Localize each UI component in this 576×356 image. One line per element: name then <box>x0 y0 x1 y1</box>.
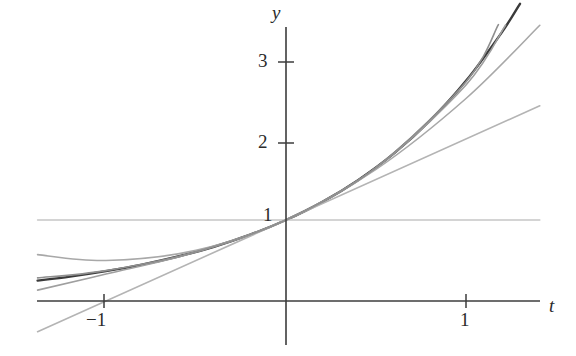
y-tick-label-3: 3 <box>258 50 268 72</box>
curve-t4 <box>38 25 499 278</box>
y-axis-label: y <box>272 2 280 24</box>
plot-canvas <box>0 0 576 356</box>
y-tick-label-1: 1 <box>263 204 273 226</box>
x-axis-label: t <box>549 295 554 317</box>
curve-t3 <box>38 25 506 290</box>
x-tick-label-1: 1 <box>460 309 470 331</box>
taylor-polynomial-figure: y t 3 2 1 −1 1 <box>0 0 576 356</box>
y-tick-label-2: 2 <box>258 131 268 153</box>
x-tick-label-minus-1: −1 <box>86 309 106 331</box>
curve-group <box>38 4 540 332</box>
curve-e-t <box>38 4 520 281</box>
